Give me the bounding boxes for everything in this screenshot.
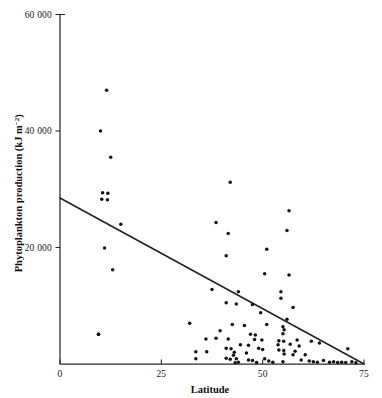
data-point	[237, 361, 241, 365]
data-point	[344, 361, 348, 365]
data-point	[282, 340, 286, 344]
data-point	[214, 337, 218, 341]
data-point	[308, 359, 312, 363]
data-point	[224, 301, 228, 305]
axes	[60, 15, 364, 365]
data-point	[245, 351, 249, 355]
data-point	[188, 321, 192, 325]
data-point	[99, 129, 103, 133]
data-point	[340, 361, 344, 365]
data-point	[277, 348, 281, 352]
tick-marks	[56, 15, 365, 365]
tick-labels: 20 00040 00060 0000255075	[25, 10, 369, 379]
data-point	[279, 296, 283, 300]
regression-fit-line	[60, 198, 364, 364]
data-points	[97, 88, 358, 364]
data-point	[295, 338, 299, 342]
data-point	[332, 360, 336, 364]
data-point	[263, 272, 267, 276]
data-point	[259, 311, 263, 315]
data-point	[288, 342, 292, 346]
data-point	[346, 347, 350, 351]
data-point	[253, 338, 257, 342]
data-point	[282, 328, 286, 332]
data-point	[265, 323, 269, 327]
data-point	[265, 248, 269, 252]
data-point	[235, 302, 239, 306]
data-point	[354, 361, 358, 365]
x-ticklabel-3: 75	[359, 369, 369, 379]
regression-line	[60, 198, 364, 364]
data-point	[267, 359, 271, 363]
x-ticklabel-2: 50	[258, 369, 268, 379]
data-point	[271, 361, 275, 365]
data-point	[291, 353, 295, 357]
data-point	[303, 353, 307, 357]
axis-spine	[60, 15, 364, 365]
data-point	[235, 357, 239, 361]
data-point	[106, 192, 110, 196]
x-ticklabel-0: 0	[58, 369, 63, 379]
data-point	[299, 358, 303, 362]
data-point	[233, 361, 237, 365]
data-point	[322, 359, 326, 363]
data-point	[194, 357, 198, 361]
data-point	[103, 246, 107, 250]
data-point	[224, 254, 228, 258]
data-point	[285, 229, 289, 233]
y-ticklabel-1: 40 000	[25, 126, 52, 136]
data-point	[204, 337, 208, 341]
data-point	[243, 324, 247, 328]
data-point	[251, 303, 255, 307]
data-point	[106, 198, 110, 202]
data-point	[328, 361, 332, 365]
data-point	[111, 268, 115, 272]
data-point	[260, 338, 264, 342]
data-point	[254, 333, 258, 337]
data-point	[247, 344, 251, 348]
data-point	[214, 221, 218, 225]
data-point	[237, 290, 241, 294]
y-ticklabel-2: 60 000	[25, 10, 52, 20]
scatter-plot: 20 00040 00060 0000255075 LatitudePhytop…	[0, 0, 382, 398]
data-point	[210, 288, 214, 292]
data-point	[247, 358, 251, 362]
data-point	[263, 357, 267, 361]
data-point	[194, 350, 198, 354]
data-point	[109, 155, 113, 159]
data-point	[287, 273, 291, 277]
data-point	[97, 333, 101, 337]
data-point	[287, 209, 291, 213]
y-ticklabel-0: 20 000	[25, 243, 52, 253]
chart-figure: 20 00040 00060 0000255075 LatitudePhytop…	[0, 0, 382, 398]
data-point	[261, 348, 265, 352]
data-point	[276, 343, 280, 347]
data-point	[228, 181, 232, 185]
data-point	[297, 344, 301, 348]
data-point	[255, 361, 259, 365]
data-point	[312, 360, 316, 364]
data-point	[281, 360, 285, 364]
data-point	[228, 358, 232, 362]
data-point	[232, 354, 236, 358]
data-point	[291, 306, 295, 310]
data-point	[224, 347, 228, 351]
data-point	[205, 350, 209, 354]
data-point	[316, 361, 320, 365]
data-point	[318, 341, 322, 345]
data-point	[218, 329, 222, 333]
x-ticklabel-1: 25	[156, 369, 166, 379]
data-point	[229, 347, 233, 351]
data-point	[231, 323, 235, 327]
data-point	[257, 347, 261, 351]
data-point	[310, 340, 314, 344]
x-axis-title: Latitude	[191, 384, 230, 395]
y-axis-title: Phytoplankton production (kJ m−2)	[13, 114, 26, 273]
data-point	[336, 361, 340, 365]
data-point	[226, 232, 230, 236]
data-point	[101, 191, 105, 195]
data-point	[100, 197, 104, 201]
data-point	[285, 317, 289, 321]
data-point	[251, 359, 255, 363]
data-point	[350, 360, 354, 364]
